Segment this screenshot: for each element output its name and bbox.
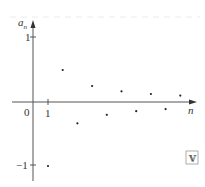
data-point bbox=[62, 69, 64, 71]
data-point bbox=[106, 114, 108, 116]
y-axis-arrow-icon bbox=[31, 20, 36, 28]
data-point bbox=[150, 93, 152, 95]
data-point bbox=[47, 165, 49, 167]
data-point bbox=[179, 95, 181, 97]
double-v-icon: V V bbox=[186, 151, 198, 164]
data-point bbox=[76, 122, 78, 124]
data-point bbox=[91, 85, 93, 87]
sequence-chart: an 1 −1 0 1 n V V bbox=[0, 0, 205, 187]
x-axis-label: n bbox=[188, 104, 194, 116]
y-axis bbox=[30, 20, 36, 181]
data-point bbox=[120, 90, 122, 92]
svg-text:V: V bbox=[190, 153, 198, 164]
y-axis-label: an bbox=[18, 16, 28, 31]
y-tick-label-neg1: −1 bbox=[16, 159, 28, 171]
origin-label: 0 bbox=[24, 106, 30, 118]
x-axis bbox=[12, 99, 197, 105]
data-point bbox=[165, 108, 167, 110]
data-points bbox=[47, 69, 182, 167]
data-point bbox=[135, 110, 137, 112]
x-tick-label-1: 1 bbox=[45, 107, 51, 119]
y-tick-label-1: 1 bbox=[25, 31, 31, 43]
